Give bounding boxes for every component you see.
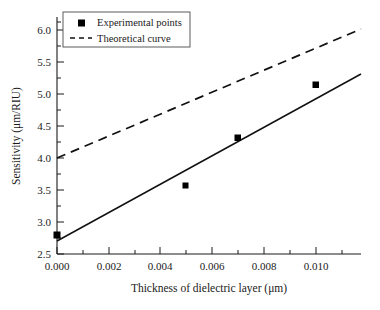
x-tick-label-0.000: 0.000 (45, 260, 70, 272)
y-tick-label-5.0: 5.0 (37, 88, 51, 100)
y-axis-title: Sensitivity (μm/RIU) (10, 87, 23, 185)
chart-legend: Experimental points Theoretical curve (63, 12, 190, 47)
y-tick-label-3.5: 3.5 (37, 184, 51, 196)
y-tick-label-4.0: 4.0 (37, 152, 51, 164)
x-tick-label-0.002: 0.002 (97, 260, 122, 272)
data-point-0 (54, 232, 61, 239)
y-tick-label-6.0: 6.0 (37, 24, 51, 36)
x-axis-title: Thickness of dielectric layer (μm) (131, 282, 287, 295)
data-point-1 (183, 183, 189, 189)
legend-label-experimental-points: Experimental points (97, 17, 182, 28)
data-point-2 (235, 135, 242, 142)
data-point-3 (313, 82, 320, 89)
x-tick-label-0.006: 0.006 (200, 260, 225, 272)
legend-label-theoretical-curve: Theoretical curve (97, 33, 171, 44)
chart-figure: 2.5 3.0 3.5 4.0 4.5 5.0 5.5 6.0 0.000 (0, 0, 380, 310)
legend-marker-square-icon (78, 20, 85, 27)
y-tick-label-3.0: 3.0 (37, 216, 51, 228)
x-tick-label-0.004: 0.004 (148, 260, 173, 272)
sensitivity-vs-thickness-plot: 2.5 3.0 3.5 4.0 4.5 5.0 5.5 6.0 0.000 (0, 0, 380, 310)
y-tick-label-2.5: 2.5 (37, 248, 51, 260)
y-tick-label-4.5: 4.5 (37, 120, 51, 132)
x-tick-label-0.010: 0.010 (304, 260, 329, 272)
y-tick-label-5.5: 5.5 (37, 56, 51, 68)
x-tick-label-0.008: 0.008 (252, 260, 277, 272)
